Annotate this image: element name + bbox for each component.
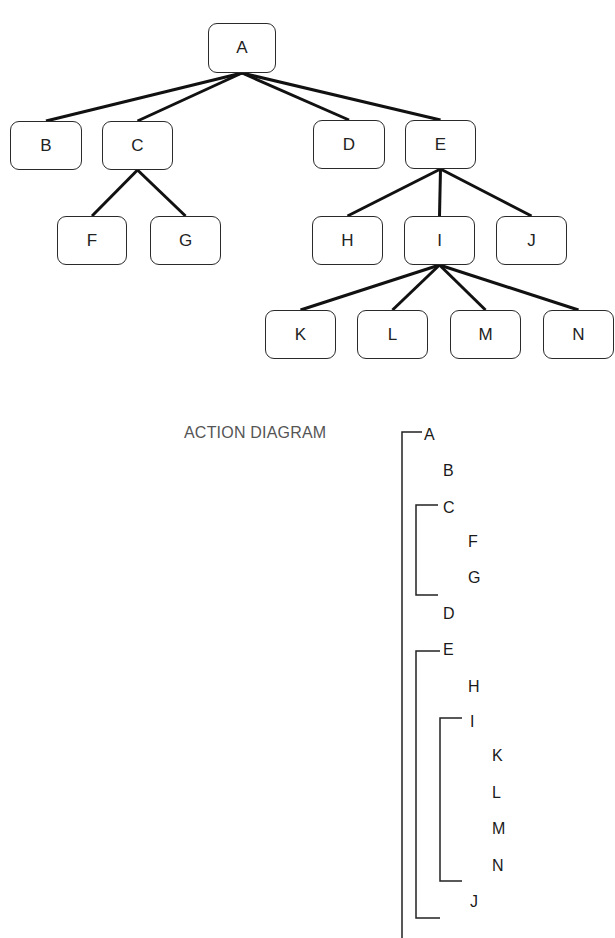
action-item-g: G: [468, 569, 480, 587]
bracket-e: [416, 651, 440, 918]
action-item-d: D: [443, 605, 455, 623]
action-item-l: L: [492, 784, 501, 802]
bracket-a: [402, 432, 422, 938]
action-item-h: H: [468, 678, 480, 696]
action-diagram-brackets: [0, 0, 615, 938]
action-item-f: F: [468, 533, 478, 551]
bracket-i: [440, 718, 462, 881]
action-item-k: K: [492, 747, 503, 765]
action-item-j: J: [470, 893, 478, 911]
action-item-i: I: [470, 713, 474, 731]
action-item-m: M: [492, 820, 505, 838]
action-item-c: C: [443, 499, 455, 517]
bracket-c: [416, 505, 438, 595]
action-item-b: B: [443, 462, 454, 480]
action-item-e: E: [443, 641, 454, 659]
action-item-a: A: [424, 426, 435, 444]
action-item-n: N: [492, 857, 504, 875]
